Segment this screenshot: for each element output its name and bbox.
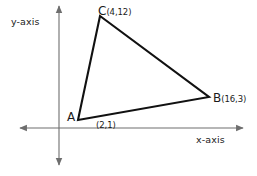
vertex-label-c: C(4,12) [98,2,131,18]
vertex-coord-a: (2,1) [96,121,116,130]
x-axis-label: x-axis [196,135,225,145]
coordinate-plane-diagram: y-axis x-axis C(4,12) B(16,3) A (2,1) [0,0,257,176]
vertex-coord-c: (4,12) [106,7,131,17]
vertex-letter-a: A [67,111,75,123]
y-axis-label: y-axis [11,17,40,27]
vertex-coord-b: (16,3) [221,94,246,104]
vertex-letter-b: B [213,91,221,105]
vertex-label-b: B(16,3) [213,89,246,105]
triangle-shape [78,16,209,120]
